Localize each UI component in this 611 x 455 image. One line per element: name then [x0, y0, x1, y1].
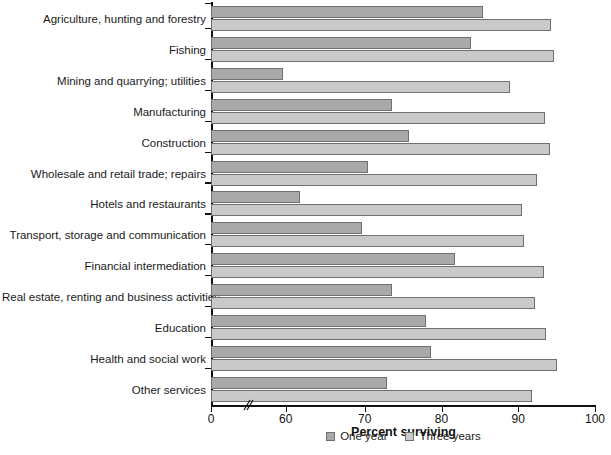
category-label: Other services — [2, 385, 206, 397]
legend-swatch-three-years — [405, 432, 414, 441]
bar-one-year — [211, 284, 392, 296]
bar-three-years — [211, 50, 554, 62]
chart-legend: One year Three years — [211, 430, 596, 442]
bar-one-year — [211, 315, 426, 327]
bar-three-years — [211, 19, 551, 31]
bar-three-years — [211, 81, 510, 93]
x-axis-tick-label: 80 — [422, 412, 462, 426]
legend-label-three-years: Three years — [419, 430, 480, 442]
bar-one-year — [211, 222, 362, 234]
category-label: Manufacturing — [2, 107, 206, 119]
bar-three-years — [211, 235, 524, 247]
category-label: Construction — [2, 138, 206, 150]
x-axis-tick-label: 100 — [575, 412, 611, 426]
bar-three-years — [211, 390, 532, 402]
bar-one-year — [211, 6, 483, 18]
x-axis-tick-label: 90 — [498, 412, 538, 426]
category-label: Health and social work — [2, 354, 206, 366]
legend-label-one-year: One year — [340, 430, 387, 442]
x-axis-tick-label: 0 — [191, 412, 231, 426]
bar-three-years — [211, 204, 522, 216]
bar-one-year — [211, 346, 431, 358]
plot-area — [211, 2, 595, 406]
bar-three-years — [211, 328, 546, 340]
bar-one-year — [211, 99, 392, 111]
category-label: Education — [2, 323, 206, 335]
horizontal-bar-chart: Agriculture, hunting and forestryFishing… — [0, 0, 611, 455]
category-label: Financial intermediation — [2, 261, 206, 273]
bar-three-years — [211, 112, 545, 124]
category-label: Hotels and restaurants — [2, 199, 206, 211]
bar-three-years — [211, 174, 537, 186]
bar-one-year — [211, 37, 471, 49]
bar-one-year — [211, 130, 409, 142]
category-label-group: Agriculture, hunting and forestryFishing… — [0, 0, 206, 410]
category-label: Fishing — [2, 45, 206, 57]
category-label: Agriculture, hunting and forestry — [2, 14, 206, 26]
bar-three-years — [211, 143, 550, 155]
bar-one-year — [211, 191, 300, 203]
bar-one-year — [211, 161, 368, 173]
bar-one-year — [211, 68, 283, 80]
bar-one-year — [211, 377, 387, 389]
x-axis-tick-label: 60 — [266, 412, 306, 426]
bar-one-year — [211, 253, 455, 265]
legend-item-three-years: Three years — [405, 430, 480, 442]
legend-item-one-year: One year — [326, 430, 387, 442]
bar-three-years — [211, 297, 535, 309]
bar-three-years — [211, 359, 557, 371]
legend-swatch-one-year — [326, 432, 335, 441]
x-axis-tick-label: 70 — [345, 412, 385, 426]
category-label: Real estate, renting and business activi… — [2, 292, 206, 304]
category-label: Transport, storage and communication — [2, 230, 206, 242]
bar-three-years — [211, 266, 544, 278]
category-label: Wholesale and retail trade; repairs — [2, 169, 206, 181]
category-label: Mining and quarrying; utilities — [2, 76, 206, 88]
